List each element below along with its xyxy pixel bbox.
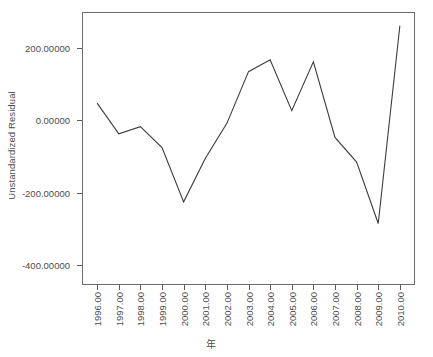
x-tick-label: 2004.00	[265, 292, 276, 338]
x-tick-mark	[357, 285, 358, 290]
x-tick-label-text: 2007.00	[329, 292, 340, 326]
x-tick-label: 2000.00	[178, 292, 189, 338]
x-tick-mark	[249, 285, 250, 290]
x-tick-mark	[313, 285, 314, 290]
x-tick-label-text: 2004.00	[265, 292, 276, 326]
x-tick-label: 1998.00	[135, 292, 146, 338]
x-tick-label-text: 1998.00	[135, 292, 146, 326]
x-tick-label-text: 2002.00	[221, 292, 232, 326]
y-tick-label: 200.00000	[25, 43, 70, 54]
x-tick-label-text: 2000.00	[178, 292, 189, 326]
x-tick-mark	[378, 285, 379, 290]
x-tick-label-text: 1999.00	[157, 292, 168, 326]
x-tick-mark	[270, 285, 271, 290]
x-axis-title: 年	[0, 336, 433, 351]
x-tick-mark	[205, 285, 206, 290]
x-tick-label: 2003.00	[243, 292, 254, 338]
x-tick-mark	[227, 285, 228, 290]
x-tick-label-text: 1997.00	[113, 292, 124, 326]
x-tick-label-text: 2008.00	[351, 292, 362, 326]
x-tick-label-text: 2006.00	[308, 292, 319, 326]
x-tick-label: 2010.00	[394, 292, 405, 338]
x-tick-mark	[162, 285, 163, 290]
x-tick-label-text: 2005.00	[286, 292, 297, 326]
y-axis-tick-labels: 200.000000.00000-200.00000-400.00000	[0, 0, 74, 300]
x-tick-label: 2009.00	[373, 292, 384, 338]
x-tick-label: 1996.00	[92, 292, 103, 338]
x-tick-label: 2005.00	[286, 292, 297, 338]
x-tick-label-text: 1996.00	[92, 292, 103, 326]
x-tick-label-text: 2003.00	[243, 292, 254, 326]
x-tick-label: 1999.00	[157, 292, 168, 338]
x-tick-label-text: 2009.00	[373, 292, 384, 326]
y-tick-label: -200.00000	[22, 187, 70, 198]
y-tick-label: 0.00000	[36, 115, 70, 126]
x-tick-label: 2007.00	[329, 292, 340, 338]
x-tick-label: 2002.00	[221, 292, 232, 338]
x-tick-mark	[140, 285, 141, 290]
x-tick-label: 2006.00	[308, 292, 319, 338]
x-tick-label: 2001.00	[200, 292, 211, 338]
x-tick-mark	[184, 285, 185, 290]
x-tick-mark	[400, 285, 401, 290]
x-tick-label-text: 2010.00	[394, 292, 405, 326]
y-tick-label: -400.00000	[22, 260, 70, 271]
x-tick-mark	[119, 285, 120, 290]
x-tick-mark	[335, 285, 336, 290]
x-axis-title-text: 年	[206, 336, 216, 351]
x-tick-label: 2008.00	[351, 292, 362, 338]
residual-data-line	[97, 26, 400, 224]
x-tick-label: 1997.00	[113, 292, 124, 338]
residual-line-chart: Unstandardized Residual 200.000000.00000…	[0, 0, 433, 357]
x-tick-label-text: 2001.00	[200, 292, 211, 326]
x-tick-mark	[292, 285, 293, 290]
data-line-svg	[82, 12, 415, 285]
x-tick-mark	[97, 285, 98, 290]
